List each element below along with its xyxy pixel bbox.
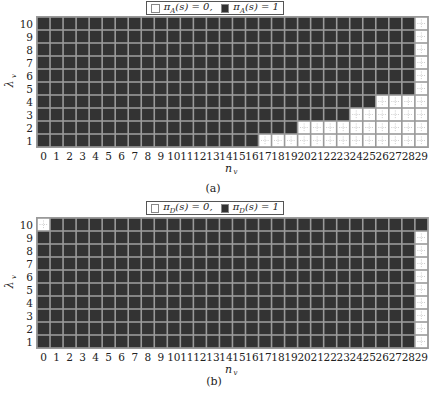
heatmap-cell xyxy=(311,31,322,42)
heatmap-cell xyxy=(233,219,244,230)
heatmap-cell xyxy=(207,44,218,55)
heatmap-cell xyxy=(351,297,362,308)
y-tick-label: 6 xyxy=(26,271,33,283)
heatmap-cell xyxy=(390,245,401,256)
heatmap-cell xyxy=(38,271,49,282)
heatmap-cell xyxy=(416,219,427,230)
x-tick-label: 21 xyxy=(310,150,323,162)
heatmap-cell xyxy=(324,271,335,282)
heatmap-cell xyxy=(207,336,218,347)
heatmap-cell xyxy=(337,245,348,256)
y-axis-label: λv xyxy=(3,275,18,289)
y-tick-label: 10 xyxy=(20,219,33,231)
heatmap-cell xyxy=(272,284,283,295)
heatmap-cell xyxy=(403,258,414,269)
heatmap-cell xyxy=(142,96,153,107)
heatmap-cell xyxy=(272,336,283,347)
y-axis-label-sub: v xyxy=(10,74,18,78)
heatmap-cell xyxy=(77,336,88,347)
heatmap-cell xyxy=(285,336,296,347)
x-tick-label: 14 xyxy=(219,351,233,363)
heatmap-cell xyxy=(220,57,231,68)
heatmap-cell xyxy=(233,96,244,107)
heatmap-cell xyxy=(116,258,127,269)
heatmap-cell xyxy=(390,297,401,308)
heatmap-cell xyxy=(51,219,62,230)
heatmap-cell xyxy=(90,271,101,282)
x-tick-label: 13 xyxy=(206,351,219,363)
heatmap-cell xyxy=(168,219,179,230)
heatmap-cell xyxy=(403,70,414,81)
heatmap-cell xyxy=(116,18,127,29)
heatmap-cell xyxy=(38,57,49,68)
heatmap-cell xyxy=(351,232,362,243)
heatmap-cell xyxy=(51,44,62,55)
heatmap-cell xyxy=(103,336,114,347)
heatmap-cell xyxy=(246,57,257,68)
heatmap-cell xyxy=(38,18,49,29)
heatmap-cell xyxy=(207,109,218,120)
caption-a: (a) xyxy=(193,182,233,195)
heatmap-cell xyxy=(272,297,283,308)
heatmap-cell xyxy=(220,219,231,230)
heatmap-cell xyxy=(390,83,401,94)
heatmap-cell xyxy=(351,70,362,81)
heatmap-cell xyxy=(403,83,414,94)
heatmap-cell xyxy=(77,258,88,269)
heatmap-cell xyxy=(181,336,192,347)
heatmap-cell xyxy=(403,31,414,42)
heatmap-cell xyxy=(168,258,179,269)
heatmap-cell xyxy=(90,297,101,308)
heatmap-cell xyxy=(351,44,362,55)
heatmap-cell xyxy=(142,336,153,347)
x-tick-label: 3 xyxy=(79,150,86,162)
heatmap-cell xyxy=(246,109,257,120)
heatmap-cell xyxy=(90,18,101,29)
heatmap-cell xyxy=(155,135,166,146)
x-tick-label: 29 xyxy=(415,150,428,162)
heatmap-cell xyxy=(324,258,335,269)
heatmap-cell xyxy=(207,310,218,321)
heatmap-cell xyxy=(38,122,49,133)
heatmap-cell xyxy=(272,232,283,243)
heatmap-cell xyxy=(259,232,270,243)
heatmap-cell xyxy=(324,31,335,42)
x-tick-label: 28 xyxy=(402,150,415,162)
heatmap-cell xyxy=(233,135,244,146)
heatmap-cell xyxy=(116,336,127,347)
heatmap-cell xyxy=(64,122,75,133)
heatmap-cell xyxy=(324,18,335,29)
heatmap-cell xyxy=(259,18,270,29)
x-tick-label: 26 xyxy=(376,351,390,363)
heatmap-cell xyxy=(377,323,388,334)
heatmap-cell xyxy=(298,258,309,269)
heatmap-cell xyxy=(220,245,231,256)
heatmap-cell xyxy=(364,245,375,256)
y-axis-label-text: λ xyxy=(3,81,16,89)
heatmap-cell xyxy=(233,323,244,334)
heatmap-cell xyxy=(194,44,205,55)
heatmap-cell xyxy=(64,310,75,321)
heatmap-cell xyxy=(233,336,244,347)
heatmap-cell xyxy=(116,297,127,308)
heatmap-cell xyxy=(129,323,140,334)
heatmap-cell xyxy=(272,70,283,81)
heatmap-cell xyxy=(142,18,153,29)
heatmap-cell xyxy=(233,122,244,133)
panel-a: πA(s) = 0, πA(s) = 1 1234567891001234567… xyxy=(0,0,430,200)
heatmap-cell xyxy=(246,245,257,256)
heatmap-cell xyxy=(77,109,88,120)
y-tick-label: 4 xyxy=(26,297,33,309)
heatmap-cell xyxy=(337,232,348,243)
heatmap-cell xyxy=(337,31,348,42)
heatmap-cell xyxy=(51,57,62,68)
heatmap-cell xyxy=(77,135,88,146)
heatmap-cell xyxy=(168,336,179,347)
x-tick-label: 12 xyxy=(193,150,206,162)
heatmap-cell xyxy=(337,57,348,68)
heatmap-cell xyxy=(311,96,322,107)
heatmap-cell xyxy=(285,297,296,308)
heatmap-cell xyxy=(220,44,231,55)
heatmap-cell xyxy=(181,96,192,107)
heatmap-cell xyxy=(51,135,62,146)
